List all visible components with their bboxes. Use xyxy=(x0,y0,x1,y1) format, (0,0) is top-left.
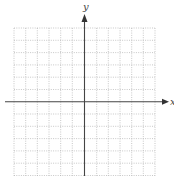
x-axis-label: x xyxy=(170,96,174,107)
y-axis xyxy=(82,14,88,176)
y-axis-arrow-icon xyxy=(82,14,88,22)
x-axis xyxy=(5,99,169,105)
x-axis-arrow-icon xyxy=(162,99,169,105)
y-axis-label: y xyxy=(82,1,89,12)
coordinate-plane: y x xyxy=(0,0,174,176)
